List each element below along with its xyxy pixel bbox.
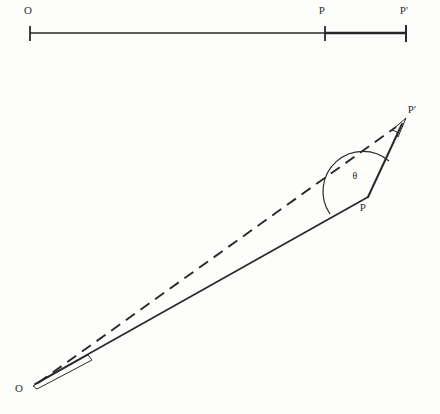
angle-label-theta: θ: [353, 170, 358, 181]
figure-root: O P P' O P P' θ: [0, 0, 440, 414]
number-line-label-P: P: [319, 4, 325, 16]
number-line-label-O: O: [24, 4, 32, 16]
vector-diagram-group: O P P' θ: [15, 103, 416, 394]
vector-label-O: O: [15, 382, 23, 394]
number-line-label-P-prime: P': [400, 4, 409, 16]
number-line-group: O P P': [24, 4, 408, 42]
vector-P-to-P-prime-solid: [368, 124, 402, 197]
vector-label-P-prime: P': [408, 103, 417, 115]
figure-canvas: O P P' O P P' θ: [0, 0, 440, 414]
vector-O-to-P-solid: [35, 197, 368, 384]
vector-O-to-P-prime-dashed: [38, 127, 396, 383]
vector-label-P: P: [360, 201, 366, 213]
origin-convergence-wedge: [33, 355, 92, 389]
